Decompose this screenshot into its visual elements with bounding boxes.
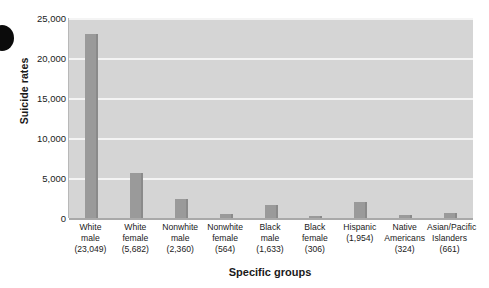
plot-area [68,18,473,218]
bar [220,214,233,219]
y-axis-tick-label: 5,000 [22,173,66,184]
y-axis-tick-label: 15,000 [22,93,66,104]
y-axis-tick-label: 20,000 [22,53,66,64]
x-axis-title: Specific groups [68,266,472,278]
x-axis-tick-label: NativeAmericans(324) [382,222,427,255]
x-axis-tick-label: Hispanic(1,954) [337,222,382,244]
chart-figure: Suicide rates 05,00010,00015,00020,00025… [0,0,489,288]
bar [130,173,143,218]
y-axis-tick-labels: 05,00010,00015,00020,00025,000 [22,18,66,218]
bar [85,34,98,218]
y-axis-tick-label: 0 [22,213,66,224]
gridline [69,18,473,20]
bar [399,215,412,218]
gridline [69,58,473,60]
bar [444,213,457,218]
bar [265,205,278,218]
x-axis-tick-labels: Whitemale(23,049)Whitefemale(5,682)Nonwh… [68,222,472,262]
bar [175,199,188,218]
x-axis-tick-label: Nonwhitemale(2,360) [158,222,203,255]
x-axis-tick-label: Blackfemale(306) [292,222,337,255]
bar [354,202,367,218]
gridline [69,98,473,100]
gridline [69,138,473,140]
page-edge-artifact [0,25,14,51]
bar [309,216,322,218]
x-axis-tick-label: Whitefemale(5,682) [113,222,158,255]
y-axis-tick-label: 25,000 [22,13,66,24]
y-axis-tick-label: 10,000 [22,133,66,144]
x-axis-tick-label: Blackmale(1,633) [248,222,293,255]
x-axis-tick-label: Asian/PacificIslanders(661) [427,222,472,255]
x-axis-tick-label: Whitemale(23,049) [68,222,113,255]
x-axis-tick-label: Nonwhitefemale(564) [203,222,248,255]
